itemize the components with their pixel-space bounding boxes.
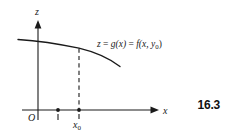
- curve-label-eq1: =: [101, 39, 111, 49]
- z-axis-label: z: [34, 6, 39, 17]
- origin-label: O: [28, 112, 35, 123]
- x0-label: x0: [72, 119, 81, 132]
- x-axis-label: x: [162, 105, 168, 116]
- z-axis-group: z: [34, 6, 41, 120]
- curve-label-fx-open: (x,: [139, 39, 151, 50]
- figure-container: z x O x0 z = g(x) = f(x, y0): [0, 0, 226, 137]
- curve-equation-label: z = g(x) = f(x, y0): [96, 39, 162, 50]
- curve-label-fx-close: ): [159, 39, 162, 50]
- curve-label-eq2: =: [126, 39, 136, 49]
- x0-point-marker: x0: [72, 108, 81, 132]
- z-axis-arrowhead: [35, 20, 42, 29]
- x0-label-subscript: 0: [77, 124, 81, 132]
- diagram-canvas: z x O x0 z = g(x) = f(x, y0): [0, 0, 226, 137]
- x-axis-group: x: [22, 105, 168, 116]
- tick-point-marker: [56, 108, 60, 120]
- x0-point-dot: [77, 108, 81, 112]
- curve-label-gx: (x): [116, 39, 127, 50]
- tick-point-dot: [56, 108, 60, 112]
- x-axis-arrowhead: [151, 107, 160, 114]
- figure-number: 16.3: [197, 98, 220, 112]
